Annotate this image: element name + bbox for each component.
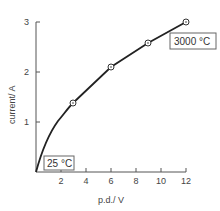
xtick-8: 8 [133,176,138,186]
ytick-2: 2 [24,67,29,77]
x-ticks [61,168,186,172]
iv-curve [36,22,186,172]
y-axis-label: current/ A [7,85,17,124]
y-ticks [36,22,40,122]
ytick-1: 1 [24,117,29,127]
data-markers [70,19,189,106]
x-axis-label: p.d./ V [98,195,124,205]
high-temp-label: 3000 °C [174,36,210,47]
chart: 3 2 1 2 4 6 8 10 12 p.d./ V current/ A 3… [0,0,220,211]
xtick-2: 2 [58,176,63,186]
xtick-4: 4 [83,176,88,186]
xtick-6: 6 [108,176,113,186]
ytick-3: 3 [24,17,29,27]
xtick-10: 10 [156,176,166,186]
low-temp-label: 25 °C [47,158,72,169]
xtick-12: 12 [181,176,191,186]
